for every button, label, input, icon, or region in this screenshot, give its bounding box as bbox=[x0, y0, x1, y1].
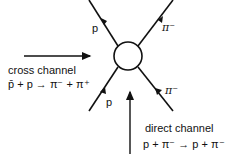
cross-channel-reaction: p̄ + p → π⁻ + π⁺ bbox=[8, 78, 90, 90]
label-bottom-left: p bbox=[106, 96, 112, 108]
label-top-left: p bbox=[92, 22, 98, 34]
label-bottom-right: π⁻ bbox=[165, 85, 178, 97]
label-top-right: π⁻ bbox=[162, 22, 175, 34]
interaction-vertex bbox=[114, 42, 142, 70]
cross-channel-title: cross channel bbox=[8, 64, 76, 76]
direct-channel-reaction: p + π⁻ → p + π⁻ bbox=[143, 138, 225, 150]
direct-channel-title: direct channel bbox=[145, 122, 214, 134]
